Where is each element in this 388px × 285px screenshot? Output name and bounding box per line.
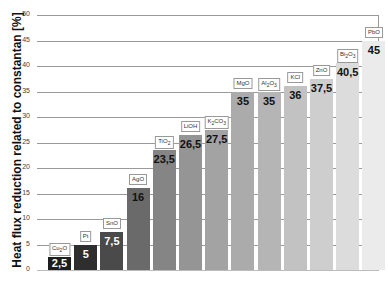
bar: 40,5 [336, 63, 359, 270]
category-label: ZnO [313, 65, 331, 76]
y-tick-label: 5 [0, 240, 30, 247]
bar: 23,5 [153, 150, 176, 270]
bar-value-label: 16 [127, 191, 150, 203]
bar: 45 [362, 41, 385, 271]
category-label: PbO [365, 27, 383, 38]
plot-area: 2,5Cu2O5Pt7,5SnO16AgO23,5TiO226,5LiOH27,… [37, 15, 379, 271]
category-label: TiO2 [155, 136, 173, 149]
y-tick-label: 20 [0, 163, 30, 170]
bar-chart: Heat flux reduction related to constanta… [0, 0, 388, 285]
bar: 5 [74, 245, 97, 271]
category-label: KCl [287, 72, 303, 83]
y-tick-label: 50 [0, 10, 30, 17]
category-label: Al2O3 [258, 78, 280, 91]
y-tick-label: 40 [0, 61, 30, 68]
y-tick-label: 45 [0, 36, 30, 43]
y-tick-label: 0 [0, 265, 30, 272]
bar: 36 [284, 86, 307, 270]
bar: 2,5 [48, 257, 71, 270]
category-label: MgO [233, 78, 252, 89]
bar-value-label: 7,5 [100, 235, 123, 247]
bar-value-label: 35 [231, 95, 254, 107]
category-label: Cu2O [49, 243, 70, 256]
bar-value-label: 35 [258, 95, 281, 107]
category-label: Bi2O3 [337, 49, 359, 62]
bar-value-label: 36 [284, 89, 307, 101]
category-label: AgO [129, 174, 147, 185]
bar: 35 [258, 92, 281, 271]
y-tick-label: 25 [0, 138, 30, 145]
category-label: LiOH [181, 121, 201, 132]
bar: 35 [231, 92, 254, 271]
bar-value-label: 2,5 [48, 257, 71, 269]
category-label: SnO [103, 218, 121, 229]
bar: 16 [127, 188, 150, 270]
y-tick-label: 35 [0, 87, 30, 94]
bar-value-label: 27,5 [205, 133, 228, 145]
bar-value-label: 26,5 [179, 138, 202, 150]
gridline [37, 15, 378, 16]
gridline [37, 41, 378, 42]
bar-value-label: 5 [74, 248, 97, 260]
bar: 7,5 [100, 232, 123, 270]
y-tick-label: 15 [0, 189, 30, 196]
bar-value-label: 45 [362, 44, 385, 56]
category-label: K2CO3 [204, 116, 229, 129]
category-label: Pt [80, 231, 92, 242]
bar: 27,5 [205, 130, 228, 270]
y-tick-label: 30 [0, 112, 30, 119]
bar: 26,5 [179, 135, 202, 270]
y-tick-label: 10 [0, 214, 30, 221]
bar-value-label: 23,5 [153, 153, 176, 165]
bar: 37,5 [310, 79, 333, 270]
bar-value-label: 37,5 [310, 82, 333, 94]
bar-value-label: 40,5 [336, 66, 359, 78]
